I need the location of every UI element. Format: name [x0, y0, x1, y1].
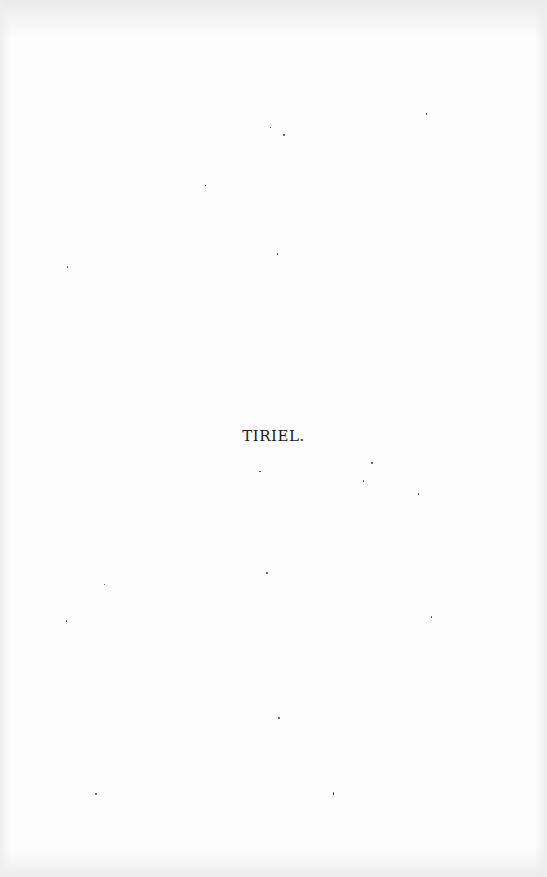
scan-speck: [371, 462, 373, 464]
scan-speck: [363, 480, 364, 482]
scan-speck: [426, 113, 427, 115]
book-page: TIRIEL.: [0, 0, 547, 877]
scan-speck: [66, 620, 67, 622]
scan-speck: [266, 572, 268, 574]
scan-speck: [67, 266, 68, 268]
scan-speck: [278, 717, 280, 719]
scan-speck: [333, 792, 334, 795]
scan-speck: [277, 253, 278, 255]
scan-speck: [418, 493, 419, 495]
scan-speck: [104, 584, 105, 585]
scan-speck: [205, 185, 206, 186]
scan-speck: [270, 127, 271, 128]
scan-edge-top: [0, 0, 547, 40]
scan-speck: [95, 793, 97, 795]
scan-speck: [283, 134, 285, 136]
scan-speck: [259, 471, 261, 472]
scan-edge-bottom: [0, 847, 547, 877]
page-title: TIRIEL.: [0, 426, 547, 446]
scan-speck: [431, 616, 432, 618]
